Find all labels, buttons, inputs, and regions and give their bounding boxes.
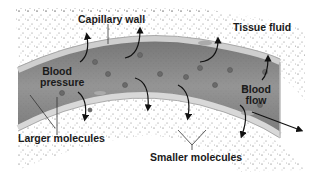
label-larger-molecules: Larger molecules: [18, 133, 105, 144]
label-blood-pressure-line2: pressure: [40, 77, 74, 88]
label-capillary-wall: Capillary wall: [78, 14, 145, 25]
capillary-diagram: Capillary wall Tissue fluid Blood pressu…: [0, 0, 311, 179]
label-blood-flow: Blood flow: [241, 84, 271, 106]
label-smaller-molecules: Smaller molecules: [150, 152, 242, 163]
label-blood-flow-line2: flow: [241, 95, 271, 106]
label-tissue-fluid: Tissue fluid: [233, 22, 291, 33]
label-blood-pressure: Blood pressure: [40, 66, 74, 88]
